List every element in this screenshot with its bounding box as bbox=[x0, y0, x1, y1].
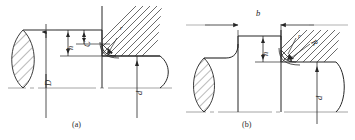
shaft-large-outline-a bbox=[23, 30, 102, 88]
shaft-right-outline-b bbox=[281, 62, 344, 112]
shoulder-hatch-a bbox=[86, 6, 192, 56]
caption-a: (a) bbox=[72, 120, 81, 129]
dimension-h-b bbox=[255, 36, 281, 62]
dimension-h-a bbox=[60, 30, 102, 56]
label-minor-diameter-a: d bbox=[135, 91, 144, 95]
label-shoulder-height-a: h bbox=[66, 46, 75, 50]
diagram-b bbox=[186, 24, 355, 124]
figure-root: D h C r d b h r R d (a) (b) bbox=[0, 0, 355, 140]
label-shoulder-height-b: h bbox=[261, 52, 270, 56]
dimension-d-b bbox=[315, 62, 319, 124]
collar-outline-b bbox=[238, 36, 281, 112]
label-major-diameter-a: D bbox=[44, 80, 53, 86]
section-lens-a bbox=[12, 30, 35, 88]
shaft-left-outline-b bbox=[204, 44, 238, 58]
label-chamfer-a: C bbox=[83, 41, 92, 47]
label-minor-diameter-b: d bbox=[315, 96, 324, 100]
label-fillet-radius-b: r bbox=[298, 33, 301, 40]
label-fillet-radius-a: r bbox=[120, 25, 123, 32]
diagram-a bbox=[8, 6, 192, 118]
fillet-detail-a bbox=[100, 38, 119, 58]
section-lens-b bbox=[194, 58, 215, 112]
shaft-small-outline-a bbox=[102, 56, 168, 88]
caption-b: (b) bbox=[242, 120, 251, 129]
label-width-b: b bbox=[256, 9, 260, 18]
dimension-d-a bbox=[135, 56, 139, 118]
technical-drawing-canvas bbox=[0, 0, 355, 140]
